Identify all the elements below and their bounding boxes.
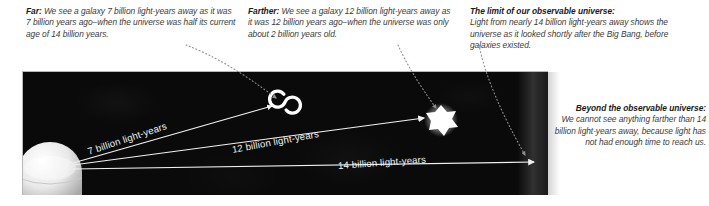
callout-limit: The limit of our observable universe: Li… bbox=[470, 6, 695, 51]
callout-beyond-body: We cannot see anything farther than 14 b… bbox=[555, 114, 706, 147]
callout-limit-heading: The limit of our observable universe: bbox=[470, 6, 695, 17]
callout-farther: Farther: We see a galaxy 12 billion ligh… bbox=[248, 6, 453, 40]
callout-farther-body: We see a galaxy 12 billion light-years a… bbox=[248, 6, 450, 39]
callout-beyond-heading: Beyond the observable universe: bbox=[551, 103, 706, 114]
callout-far-heading: Far: bbox=[26, 6, 42, 16]
callout-limit-body: Light from nearly 14 billion light-years… bbox=[470, 17, 668, 50]
figure-canvas: 7 billion light-years 12 billion light-y… bbox=[0, 0, 709, 206]
callout-far: Far: We see a galaxy 7 billion light-yea… bbox=[26, 6, 238, 40]
callout-farther-heading: Farther: bbox=[248, 6, 279, 16]
callout-beyond: Beyond the observable universe: We canno… bbox=[551, 103, 706, 148]
callout-far-body: We see a galaxy 7 billion light-years aw… bbox=[26, 6, 235, 39]
